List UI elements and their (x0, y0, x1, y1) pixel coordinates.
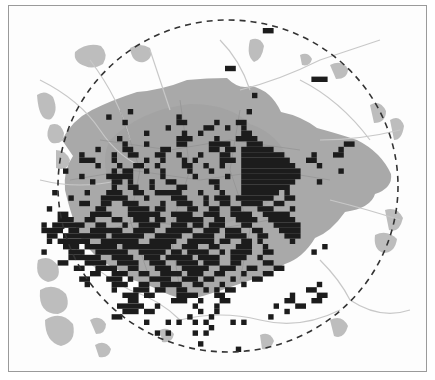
density-cell (144, 141, 149, 146)
density-cell (241, 163, 295, 168)
density-cell (155, 217, 166, 222)
density-cell (317, 282, 322, 287)
density-cell (230, 320, 235, 325)
density-cell (193, 158, 198, 163)
density-cell (144, 195, 149, 200)
density-cell (338, 147, 343, 152)
density-cell (112, 185, 117, 190)
density-cell (155, 163, 160, 168)
density-cell (149, 179, 154, 184)
density-cell (79, 174, 84, 179)
density-cell (176, 260, 198, 265)
density-cell (193, 330, 198, 335)
density-cell (203, 201, 208, 206)
density-cell (155, 233, 182, 238)
density-cell (214, 293, 225, 298)
density-cell (241, 201, 263, 206)
density-cell (214, 195, 230, 200)
density-cell (317, 293, 328, 298)
density-cell (160, 282, 182, 287)
density-cell (139, 249, 166, 254)
density-cell (241, 125, 246, 130)
density-cell (85, 244, 117, 249)
density-cell (214, 217, 225, 222)
density-cell (203, 260, 219, 265)
density-cell (284, 195, 295, 200)
density-cell (144, 293, 155, 298)
density-cell (128, 276, 133, 281)
density-cell (122, 141, 127, 146)
density-cell (101, 239, 139, 244)
density-cell (133, 217, 149, 222)
density-cell (220, 239, 231, 244)
density-cell (193, 233, 215, 238)
density-cell (63, 233, 106, 238)
density-cell (176, 293, 198, 298)
density-cell (85, 190, 90, 195)
density-cell (284, 190, 289, 195)
density-cell (166, 320, 171, 325)
density-cell (257, 206, 273, 211)
density-cell (122, 147, 133, 152)
density-cell (311, 152, 316, 157)
density-cell (236, 244, 252, 249)
density-cell (241, 131, 252, 136)
density-cell (112, 255, 134, 260)
density-cell (268, 314, 273, 319)
density-cell (58, 239, 90, 244)
density-cell (160, 174, 165, 179)
density-cell (203, 276, 214, 281)
density-cell (236, 217, 258, 222)
density-cell (122, 201, 138, 206)
density-cell (128, 109, 133, 114)
density-cell (106, 276, 122, 281)
density-cell (155, 287, 166, 292)
density-cell (284, 309, 289, 314)
density-cell (225, 147, 236, 152)
density-cell (95, 266, 117, 271)
density-cell (176, 201, 192, 206)
density-cell (171, 212, 193, 217)
density-cell (214, 136, 219, 141)
density-cell (209, 244, 220, 249)
density-cell (139, 271, 150, 276)
density-cell (263, 271, 274, 276)
density-cell (160, 147, 171, 152)
density-cell (139, 222, 161, 227)
density-cell (166, 255, 193, 260)
density-cell (209, 314, 214, 319)
density-cell (106, 174, 133, 179)
density-cell (241, 222, 252, 227)
density-cell (128, 212, 160, 217)
density-cell (344, 141, 355, 146)
density-cell (117, 163, 122, 168)
density-cell (133, 287, 149, 292)
density-cell (176, 217, 203, 222)
density-cell (112, 158, 117, 163)
density-cell (160, 271, 182, 276)
density-cell (263, 212, 290, 217)
density-cell (182, 131, 187, 136)
density-cell (290, 293, 295, 298)
density-cell (90, 228, 122, 233)
density-cell (160, 168, 165, 173)
density-cell (241, 190, 279, 195)
density-cell (220, 190, 225, 195)
density-cell (47, 206, 52, 211)
density-cell (166, 125, 171, 130)
density-cell (241, 185, 290, 190)
density-cell (263, 244, 268, 249)
density-cell (101, 195, 128, 200)
density-cell (230, 255, 246, 260)
density-cell (220, 249, 225, 254)
density-cell (230, 276, 235, 281)
density-cell (241, 152, 284, 157)
density-map (0, 0, 435, 380)
density-cell (187, 314, 192, 319)
density-cell (47, 239, 52, 244)
density-cell (182, 276, 198, 281)
density-cell (187, 168, 192, 173)
density-cell (47, 233, 58, 238)
density-cell (128, 206, 150, 211)
density-cell (68, 249, 84, 254)
